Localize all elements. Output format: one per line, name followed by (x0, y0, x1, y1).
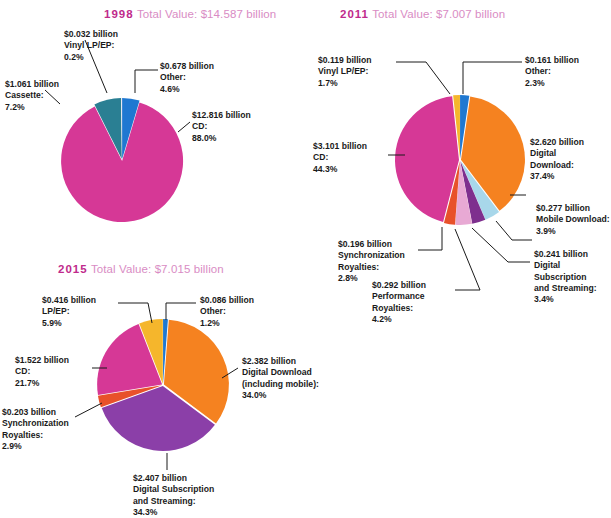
label-2011-vinyl-value: $0.119 billion (318, 55, 372, 66)
label-2015-dd-percent: 34.0% (242, 390, 319, 401)
label-2015-lp-ep: $0.416 billion LP/EP: 5.9% (42, 295, 96, 329)
label-1998-vinyl-name: Vinyl LP/EP: (64, 40, 118, 51)
label-1998-other-name: Other: (160, 72, 214, 83)
label-2011-md-percent: 3.9% (536, 226, 610, 237)
label-1998-vinyl: $0.032 billion Vinyl LP/EP: 0.2% (64, 29, 118, 63)
label-1998-other-value: $0.678 billion (160, 61, 214, 72)
label-2011-other: $0.161 billion Other: 2.3% (525, 55, 579, 89)
label-2011-ds-name-1: Digital (534, 260, 597, 271)
label-2011-other-percent: 2.3% (525, 78, 579, 89)
label-2011-ds-value: $0.241 billion (534, 249, 597, 260)
label-1998-other: $0.678 billion Other: 4.6% (160, 61, 214, 95)
label-2011-mobile-download: $0.277 billion Mobile Download: 3.9% (536, 203, 610, 237)
label-2011-digital-subscription: $0.241 billion Digital Subscription and … (534, 249, 597, 306)
label-2011-sy-value: $0.196 billion (338, 239, 405, 250)
label-2015-cd: $1.522 billion CD: 21.7% (15, 355, 69, 389)
label-2015-dd-value: $2.382 billion (242, 356, 319, 367)
label-2015-sy-name-1: Synchronization (2, 418, 69, 429)
label-2015-lp-percent: 5.9% (42, 318, 96, 329)
label-2015-cd-percent: 21.7% (15, 378, 69, 389)
label-2015-dd-name-2: (including mobile): (242, 379, 319, 390)
label-2011-vinyl-name: Vinyl LP/EP: (318, 66, 372, 77)
label-2015-cd-name: CD: (15, 366, 69, 377)
label-2011-cd-value: $3.101 billion (313, 141, 367, 152)
label-1998-cassette: $1.061 billion Cassette: 7.2% (5, 79, 59, 113)
label-2011-md-value: $0.277 billion (536, 203, 610, 214)
label-2011-other-name: Other: (525, 66, 579, 77)
label-2015-other-value: $0.086 billion (200, 295, 254, 306)
label-2015-sy-value: $0.203 billion (2, 407, 69, 418)
label-2011-dd-value: $2.620 billion (530, 137, 584, 148)
label-1998-other-percent: 4.6% (160, 84, 214, 95)
label-2015-cd-value: $1.522 billion (15, 355, 69, 366)
label-1998-cassette-name: Cassette: (5, 90, 59, 101)
label-2015-synchronization: $0.203 billion Synchronization Royalties… (2, 407, 69, 452)
label-2011-digital-download: $2.620 billion Digital Download: 37.4% (530, 137, 584, 182)
label-1998-cd: $12.816 billion CD: 88.0% (192, 110, 251, 144)
label-1998-cd-percent: 88.0% (192, 133, 251, 144)
label-2015-ds-name-2: and Streaming: (133, 496, 214, 507)
label-2015-lp-name: LP/EP: (42, 306, 96, 317)
label-2011-vinyl: $0.119 billion Vinyl LP/EP: 1.7% (318, 55, 372, 89)
label-1998-cd-name: CD: (192, 121, 251, 132)
label-2015-digital-download: $2.382 billion Digital Download (includi… (242, 356, 319, 401)
label-1998-vinyl-percent: 0.2% (64, 52, 118, 63)
label-2011-dd-name-1: Digital (530, 148, 584, 159)
label-2011-md-name: Mobile Download: (536, 214, 610, 225)
label-2011-dd-name-2: Download: (530, 160, 584, 171)
label-2015-digital-subscription: $2.407 billion Digital Subscription and … (133, 473, 214, 518)
label-2011-ds-percent: 3.4% (534, 294, 597, 305)
label-2015-ds-name-1: Digital Subscription (133, 484, 214, 495)
label-2015-other: $0.086 billion Other: 1.2% (200, 295, 254, 329)
label-2015-other-name: Other: (200, 306, 254, 317)
label-2015-ds-value: $2.407 billion (133, 473, 214, 484)
chart-2015: 2015 Total Value: $7.015 billion $0.416 … (0, 255, 420, 512)
label-2015-sy-percent: 2.9% (2, 441, 69, 452)
label-2011-other-value: $0.161 billion (525, 55, 579, 66)
label-2011-dd-percent: 37.4% (530, 171, 584, 182)
label-1998-cassette-value: $1.061 billion (5, 79, 59, 90)
label-2015-dd-name-1: Digital Download (242, 367, 319, 378)
label-2011-cd-percent: 44.3% (313, 164, 367, 175)
label-1998-cd-value: $12.816 billion (192, 110, 251, 121)
label-2015-sy-name-2: Royalties: (2, 430, 69, 441)
label-2011-cd: $3.101 billion CD: 44.3% (313, 141, 367, 175)
label-2011-vinyl-percent: 1.7% (318, 78, 372, 89)
label-1998-vinyl-value: $0.032 billion (64, 29, 118, 40)
chart-1998: 1998 Total Value: $14.587 billion $0.032… (0, 0, 300, 250)
label-2015-other-percent: 1.2% (200, 318, 254, 329)
label-1998-cassette-percent: 7.2% (5, 102, 59, 113)
label-2015-ds-percent: 34.3% (133, 507, 214, 518)
label-2015-lp-value: $0.416 billion (42, 295, 96, 306)
label-2011-ds-name-2: Subscription (534, 272, 597, 283)
label-2011-ds-name-3: and Streaming: (534, 283, 597, 294)
chart-1998-leader-lines (0, 0, 300, 250)
label-2011-cd-name: CD: (313, 152, 367, 163)
